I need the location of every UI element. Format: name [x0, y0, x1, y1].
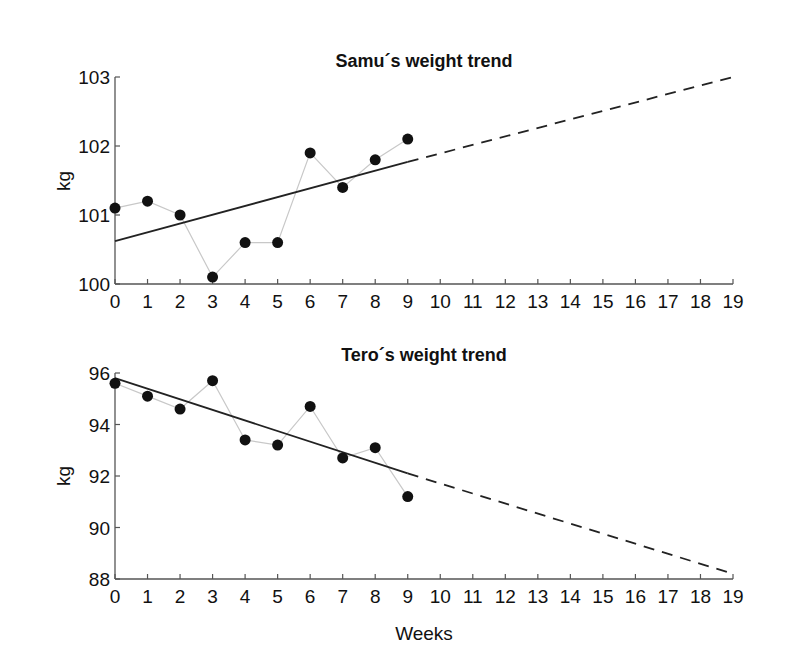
x-tick-label: 14 — [560, 291, 582, 312]
y-tick-label: 100 — [78, 274, 110, 295]
y-tick-label: 101 — [78, 205, 110, 226]
x-tick-label: 5 — [272, 586, 283, 607]
x-tick-label: 16 — [625, 586, 646, 607]
y-tick-label: 94 — [89, 415, 111, 436]
x-tick-label: 11 — [463, 291, 483, 312]
x-tick-label: 12 — [495, 291, 516, 312]
y-tick-label: 92 — [89, 466, 110, 487]
weight-trend-figure: Samu´s weight trend kg 10010110210301234… — [0, 0, 786, 660]
data-point-marker — [337, 182, 348, 193]
data-point-marker — [305, 401, 316, 412]
data-point-marker — [175, 210, 186, 221]
x-tick-label: 4 — [240, 291, 251, 312]
axes: 1001011021030123456789101112131415161718… — [78, 67, 743, 312]
x-tick-label: 8 — [370, 586, 381, 607]
x-tick-label: 3 — [207, 291, 218, 312]
data-point-marker — [337, 452, 348, 463]
x-tick-label: 1 — [142, 586, 153, 607]
x-tick-label: 9 — [402, 291, 413, 312]
measurement-connector-line — [115, 139, 408, 277]
x-tick-label: 15 — [592, 291, 613, 312]
x-tick-label: 7 — [337, 586, 348, 607]
y-tick-label: 90 — [89, 518, 110, 539]
plot-area — [110, 375, 734, 574]
x-tick-label: 10 — [430, 586, 451, 607]
x-tick-label: 6 — [305, 586, 316, 607]
data-point-marker — [240, 237, 251, 248]
measurement-connector-line — [115, 381, 408, 497]
data-point-marker — [207, 375, 218, 386]
samu-weight-chart: Samu´s weight trend kg 10010110210301234… — [53, 51, 744, 312]
x-tick-label: 6 — [305, 291, 316, 312]
chart-title: Samu´s weight trend — [335, 51, 512, 71]
y-tick-label: 88 — [89, 569, 110, 590]
trend-line — [115, 162, 408, 241]
x-tick-label: 19 — [722, 586, 743, 607]
tero-weight-chart: Tero´s weight trend kg Weeks 88909294960… — [53, 345, 744, 644]
y-tick-label: 102 — [78, 136, 110, 157]
trend-line — [115, 378, 408, 473]
x-tick-label: 9 — [402, 586, 413, 607]
data-point-marker — [110, 378, 121, 389]
data-point-marker — [402, 134, 413, 145]
data-point-marker — [142, 391, 153, 402]
x-tick-label: 5 — [272, 291, 283, 312]
x-tick-label: 2 — [175, 586, 186, 607]
x-tick-label: 17 — [657, 586, 678, 607]
x-tick-label: 12 — [495, 586, 516, 607]
x-tick-label: 3 — [207, 586, 218, 607]
x-tick-label: 1 — [142, 291, 153, 312]
data-point-marker — [402, 491, 413, 502]
x-tick-label: 14 — [560, 586, 582, 607]
x-tick-label: 11 — [463, 586, 483, 607]
y-axis-label: kg — [53, 466, 74, 486]
x-tick-label: 0 — [110, 291, 121, 312]
data-point-marker — [272, 440, 283, 451]
x-tick-label: 10 — [430, 291, 451, 312]
x-tick-label: 7 — [337, 291, 348, 312]
x-tick-label: 8 — [370, 291, 381, 312]
y-tick-label: 96 — [89, 363, 110, 384]
x-tick-label: 13 — [527, 291, 548, 312]
x-tick-label: 19 — [722, 291, 743, 312]
data-point-marker — [175, 404, 186, 415]
x-axis-label: Weeks — [395, 623, 453, 644]
data-point-marker — [370, 442, 381, 453]
x-tick-label: 2 — [175, 291, 186, 312]
trend-projection-line — [408, 77, 733, 162]
data-point-marker — [207, 272, 218, 283]
data-point-marker — [272, 237, 283, 248]
x-tick-label: 18 — [690, 586, 711, 607]
data-point-marker — [370, 154, 381, 165]
axes: 8890929496012345678910111213141516171819 — [89, 363, 744, 607]
data-point-marker — [142, 196, 153, 207]
trend-projection-line — [408, 473, 733, 573]
plot-area — [110, 77, 734, 283]
y-axis-label: kg — [53, 171, 74, 191]
y-tick-label: 103 — [78, 67, 110, 88]
x-tick-label: 0 — [110, 586, 121, 607]
x-tick-label: 13 — [527, 586, 548, 607]
data-point-marker — [240, 434, 251, 445]
x-tick-label: 16 — [625, 291, 646, 312]
x-tick-label: 4 — [240, 586, 251, 607]
x-tick-label: 15 — [592, 586, 613, 607]
chart-title: Tero´s weight trend — [341, 345, 507, 365]
x-tick-label: 17 — [657, 291, 678, 312]
data-point-marker — [305, 147, 316, 158]
x-tick-label: 18 — [690, 291, 711, 312]
data-point-marker — [110, 203, 121, 214]
